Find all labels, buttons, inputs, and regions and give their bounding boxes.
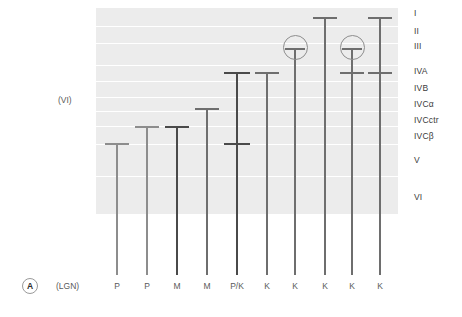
axon-stem-k-6 — [266, 72, 268, 275]
axon-stem-k-7 — [294, 48, 296, 275]
terminal-bar-p-1 — [105, 143, 129, 145]
lgn-cortical-lamination-diagram: IIIIIIIVAIVBIVCαIVCctrIVCβVVI (VI) A (LG… — [0, 0, 462, 317]
terminal-arbor-ring-k-9 — [340, 35, 365, 60]
cross-bar-pk-5-1 — [224, 143, 250, 145]
cross-bar-k-9-1 — [340, 72, 364, 74]
layer-label-iii: III — [414, 42, 422, 51]
terminal-bar-pk-5 — [224, 72, 250, 74]
terminal-bar-k-8 — [313, 17, 337, 19]
terminal-bar-k-6 — [255, 72, 279, 74]
column-label-k-6: K — [264, 282, 270, 291]
layer-label-vi: VI — [414, 193, 422, 202]
lgn-source-caption: (LGN) — [56, 282, 79, 291]
axon-stem-m-3 — [176, 126, 178, 275]
column-label-k-9: K — [349, 282, 355, 291]
axon-stem-p-1 — [116, 143, 118, 275]
column-label-k-8: K — [322, 282, 328, 291]
layer-label-ivb: IVB — [414, 84, 428, 93]
terminal-arbor-ring-k-7 — [283, 35, 308, 60]
column-label-m-3: M — [173, 282, 180, 291]
layer-band-i — [96, 8, 398, 26]
column-label-p-1: P — [114, 282, 120, 291]
panel-letter-badge: A — [22, 278, 38, 294]
column-label-k-10: K — [377, 282, 383, 291]
terminal-bar-p-2 — [135, 126, 159, 128]
axon-stem-m-4 — [206, 108, 208, 275]
layer-label-ii: II — [414, 27, 419, 36]
cross-bar-k-10-1 — [368, 72, 392, 74]
column-label-k-7: K — [292, 282, 298, 291]
axon-stem-k-8 — [324, 17, 326, 275]
axon-stem-pk-5 — [236, 72, 238, 275]
column-label-m-4: M — [203, 282, 210, 291]
side-caption-v1: (VI) — [58, 96, 72, 105]
axon-stem-k-10 — [379, 17, 381, 275]
column-label-pk-5: P/K — [230, 282, 244, 291]
layer-label-v: V — [414, 156, 420, 165]
terminal-bar-k-10 — [368, 17, 392, 19]
layer-label-ivcctr: IVCctr — [414, 116, 439, 125]
layer-label-i: I — [414, 9, 417, 18]
layer-label-ivc: IVCβ — [414, 132, 434, 141]
layer-label-ivc: IVCα — [414, 100, 434, 109]
layer-label-iva: IVA — [414, 67, 428, 76]
terminal-bar-m-3 — [165, 126, 189, 128]
axon-stem-p-2 — [146, 126, 148, 275]
axon-stem-k-9 — [351, 48, 353, 275]
terminal-bar-m-4 — [195, 108, 219, 110]
column-label-p-2: P — [144, 282, 150, 291]
